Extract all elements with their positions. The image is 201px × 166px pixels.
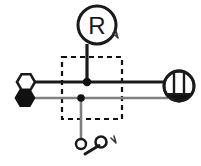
callout-tick-switch (111, 136, 116, 143)
junction-dot-upper (83, 78, 91, 86)
junction-dot-lower (77, 94, 85, 102)
switch-pole-circle (76, 139, 86, 149)
meter-indicator-symbol (163, 70, 196, 105)
schematic-canvas: R (0, 0, 201, 166)
switch-lever-wire (85, 146, 99, 155)
toggle-switch-symbol[interactable] (76, 137, 107, 155)
regulator-label: R (88, 12, 105, 39)
schematic-diagram: R (0, 0, 201, 166)
open-hex-terminal (17, 74, 35, 90)
grouping-dashed-box (62, 57, 122, 119)
filled-hex-terminal (16, 90, 34, 106)
